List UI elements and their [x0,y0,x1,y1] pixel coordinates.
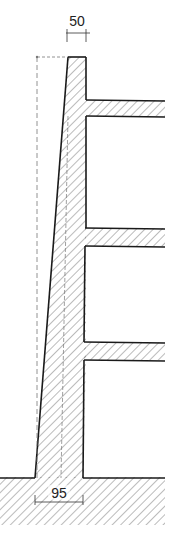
slab-3 [84,342,165,361]
foundation-ground [0,477,165,525]
top-width-dimension: 50 [66,13,90,42]
structural-section-diagram: 50 95 [0,0,173,536]
tapered-wall [35,57,86,478]
slab-1 [86,100,165,117]
top-width-label: 50 [69,13,85,29]
slab-2 [85,228,165,247]
base-width-label: 95 [51,485,67,501]
